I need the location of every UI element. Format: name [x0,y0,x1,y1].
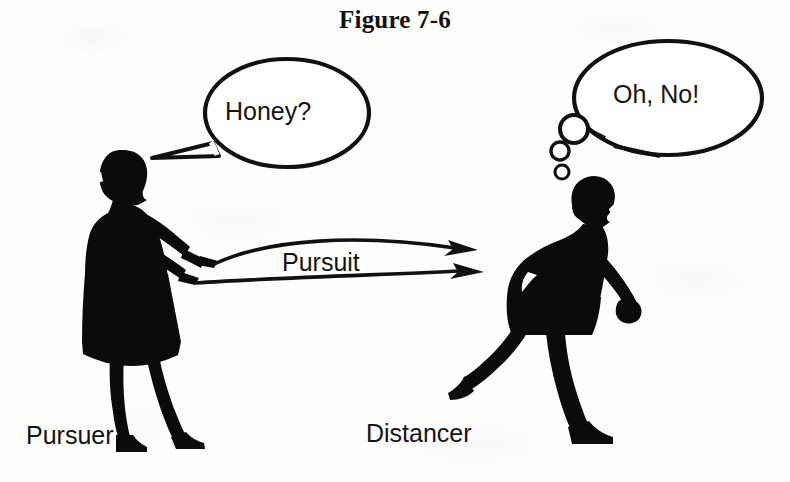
thought-bubble-icon [551,41,762,179]
distancer-caption: Distancer [366,419,472,448]
distancer-thought-text: Oh, No! [613,80,699,109]
figure-illustration [0,0,790,482]
woman-silhouette-icon [82,150,218,452]
pursuer-caption: Pursuer [26,421,114,450]
pursuit-relation-label: Pursuit [282,248,360,277]
pursuer-speech-text: Honey? [225,97,311,126]
man-silhouette-icon [448,176,642,444]
figure-canvas: Figure 7-6 [0,0,790,482]
